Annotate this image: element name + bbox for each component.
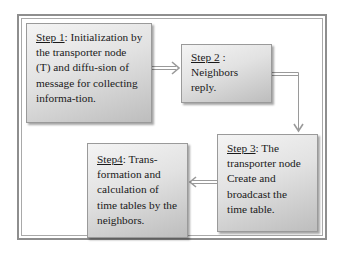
step-4-box: Step4: Trans-formation and calculation o…: [87, 143, 188, 238]
arrow-step2-to-step3: [272, 73, 303, 132]
step-2-box: Step 2 : Neighbors reply.: [181, 44, 272, 103]
step-3-label: Step 3: [227, 142, 256, 154]
step-2-separator: :: [220, 51, 226, 63]
step-2-text: Neighbors reply.: [191, 65, 251, 95]
step-1-box: Step 1: Initialization by the transporte…: [26, 23, 152, 123]
arrow-step1-to-step2: [152, 62, 179, 74]
arrow-step3-to-step4: [190, 177, 217, 187]
step-4-label: Step4: [97, 153, 123, 165]
step-3-box: Step 3: The transporter node Create and …: [217, 134, 318, 232]
step-1-label: Step 1: [36, 31, 65, 43]
step-2-label: Step 2: [191, 51, 220, 63]
